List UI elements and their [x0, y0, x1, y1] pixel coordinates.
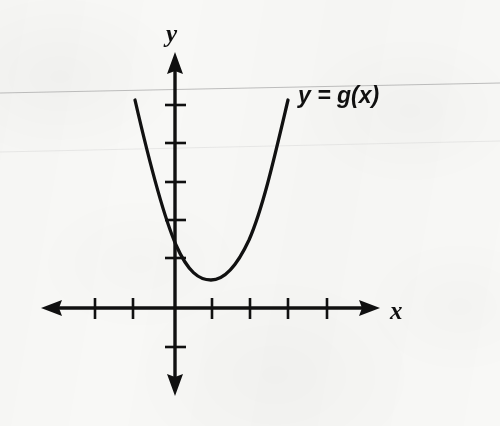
- coordinate-plane: y x y = g(x): [0, 0, 500, 426]
- x-axis: [41, 298, 380, 319]
- scan-artifact-line-secondary: [0, 141, 500, 152]
- x-axis-right-arrowhead: [359, 300, 380, 316]
- y-axis-label: y: [163, 20, 178, 47]
- parabola-curve: [135, 100, 288, 280]
- y-axis-top-arrowhead: [167, 52, 183, 74]
- y-axis-bottom-arrowhead: [167, 374, 183, 396]
- graph-figure: y x y = g(x): [0, 0, 500, 426]
- curve-equation-label: y = g(x): [297, 82, 379, 108]
- scan-artifact-line: [0, 83, 500, 93]
- x-axis-label: x: [389, 297, 403, 324]
- x-axis-left-arrowhead: [41, 300, 62, 316]
